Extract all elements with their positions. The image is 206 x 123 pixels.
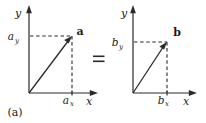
panel-b-y-component-subscript: y xyxy=(118,43,124,51)
panel-b-y-component-label: b y xyxy=(112,36,124,51)
figure-canvas: y x a y a x a = xyxy=(0,0,206,123)
panel-a-y-axis xyxy=(26,5,32,93)
panel-a-vector-shaft xyxy=(29,41,69,94)
panel-a-y-axis-label: y xyxy=(14,7,22,20)
panel-b-y-axis-arrowhead xyxy=(130,5,136,13)
figure-caption: (a) xyxy=(7,106,22,119)
panel-a-x-component-label: a x xyxy=(63,94,74,108)
panel-b-x-component-subscript: x xyxy=(165,100,169,108)
panel-b-x-axis-arrowhead xyxy=(189,90,197,96)
panel-b: y x b y b x b xyxy=(112,5,197,108)
panel-a-vector-arrowhead xyxy=(64,36,72,44)
panel-b-y-component-base: b xyxy=(112,36,119,48)
equals-bar-bottom xyxy=(93,61,105,63)
panel-b-vector-shaft xyxy=(133,47,164,94)
panel-a-y-component-subscript: y xyxy=(14,37,20,45)
panel-b-vector-label: b xyxy=(173,26,181,39)
panel-b-y-axis-label: y xyxy=(120,7,128,20)
panel-a-x-component-subscript: x xyxy=(70,100,74,108)
panel-a-y-component-base: a xyxy=(8,30,14,42)
panel-a-x-component-base: a xyxy=(63,94,69,106)
equals-bar-top xyxy=(93,56,105,58)
panel-b-vector-arrowhead xyxy=(159,42,167,50)
panel-a-x-axis-label: x xyxy=(86,95,93,108)
equals-sign: = xyxy=(93,56,105,63)
panel-a-vector-arrow xyxy=(29,36,72,93)
panel-a: y x a y a x a xyxy=(8,5,98,108)
panel-b-vector-arrow xyxy=(133,42,167,93)
panel-b-x-axis-label: x xyxy=(183,95,190,108)
vector-equality-figure: y x a y a x a = xyxy=(0,0,206,123)
panel-b-y-axis xyxy=(130,5,136,93)
panel-b-x-component-base: b xyxy=(158,94,165,106)
panel-b-x-component-label: b x xyxy=(158,94,169,108)
panel-a-vector-label: a xyxy=(76,25,83,38)
panel-a-y-component-label: a y xyxy=(8,30,20,45)
panel-a-y-axis-arrowhead xyxy=(26,5,32,13)
